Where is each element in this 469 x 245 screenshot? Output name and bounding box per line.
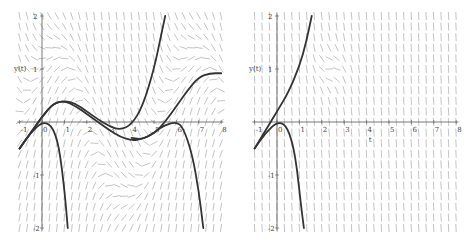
x-tick-label: -1 (256, 126, 263, 134)
y-tick-label: -2 (33, 225, 40, 233)
x-tick-label: 0 (43, 126, 47, 134)
x-tick-label: 8 (222, 126, 226, 134)
y-tick-label: 1 (268, 66, 272, 74)
x-tick-label: 8 (457, 126, 461, 134)
x-tick-label: 1 (300, 126, 304, 134)
y-tick-label: -1 (33, 172, 40, 180)
y-tick-label: 2 (268, 13, 272, 21)
solution-curve-solution-1 (20, 16, 166, 149)
left-plot-canvas: -1012345678-2-112y(t) (0, 0, 234, 245)
x-tick-label: 1 (65, 126, 69, 134)
x-tick-label: -1 (21, 126, 28, 134)
x-tick-label: 7 (435, 126, 439, 134)
x-tick-label: 2 (323, 126, 327, 134)
left-direction-field-plot: -1012345678-2-112y(t) (0, 0, 234, 245)
y-axis-label: y(t) (13, 65, 26, 73)
x-axis-label: t (369, 136, 372, 144)
y-axis-label: y(t) (248, 65, 261, 73)
x-tick-label: 7 (200, 126, 204, 134)
x-tick-label: 3 (345, 126, 349, 134)
x-tick-label: 2 (88, 126, 92, 134)
x-tick-label: 5 (390, 126, 394, 134)
right-direction-field-plot: -1012345678-2-112y(t)t (235, 0, 469, 245)
x-tick-label: 6 (412, 126, 417, 134)
y-tick-label: -2 (268, 225, 275, 233)
right-plot-canvas: -1012345678-2-112y(t)t (235, 0, 469, 245)
x-tick-label: 4 (368, 126, 373, 134)
x-tick-label: 4 (133, 126, 138, 134)
x-tick-label: 0 (278, 126, 282, 134)
y-tick-label: 2 (33, 13, 37, 21)
y-tick-label: 1 (33, 66, 37, 74)
y-tick-label: -1 (268, 172, 275, 180)
